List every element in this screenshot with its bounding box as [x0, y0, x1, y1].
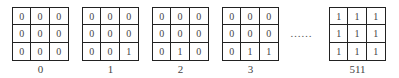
- cell: 0: [13, 43, 31, 60]
- cell: 1: [171, 43, 189, 60]
- cell: 0: [260, 8, 278, 25]
- cell: 1: [367, 25, 385, 42]
- binary-grid-2: 0 0 0 0 0 0 0 1 0: [152, 7, 209, 61]
- grid-label-1: 1: [82, 63, 139, 75]
- cell: 0: [13, 25, 31, 42]
- binary-grid-511: 1 1 1 1 1 1 1 1 1: [329, 7, 386, 61]
- cell: 1: [348, 25, 366, 42]
- cell: 0: [31, 25, 49, 42]
- cell: 0: [241, 25, 259, 42]
- cell: 0: [241, 8, 259, 25]
- cell: 0: [153, 25, 171, 42]
- binary-grid-1: 0 0 0 0 0 0 0 0 1: [82, 7, 139, 61]
- cell: 0: [260, 25, 278, 42]
- cell: 0: [153, 43, 171, 60]
- cell: 0: [171, 8, 189, 25]
- cell: 0: [50, 25, 68, 42]
- cell: 0: [190, 25, 208, 42]
- grid-label-511: 511: [329, 63, 386, 75]
- cell: 0: [223, 25, 241, 42]
- cell: 1: [330, 43, 348, 60]
- cell: 0: [101, 8, 119, 25]
- grid-label-2: 2: [152, 63, 209, 75]
- cell: 0: [190, 8, 208, 25]
- cell: 0: [101, 25, 119, 42]
- grid-label-3: 3: [222, 63, 279, 75]
- cell: 0: [31, 8, 49, 25]
- cell: 0: [153, 8, 171, 25]
- cell: 0: [83, 8, 101, 25]
- cell: 0: [50, 8, 68, 25]
- cell: 0: [223, 43, 241, 60]
- cell: 1: [260, 43, 278, 60]
- binary-grid-3: 0 0 0 0 0 0 0 1 1: [222, 7, 279, 61]
- grid-label-0: 0: [12, 63, 69, 75]
- cell: 0: [101, 43, 119, 60]
- cell: 0: [223, 8, 241, 25]
- cell: 1: [348, 8, 366, 25]
- cell: 0: [120, 25, 138, 42]
- binary-grid-0: 0 0 0 0 0 0 0 0 0: [12, 7, 69, 61]
- cell: 1: [241, 43, 259, 60]
- cell: 1: [120, 43, 138, 60]
- cell: 0: [50, 43, 68, 60]
- cell: 0: [190, 43, 208, 60]
- cell: 0: [13, 8, 31, 25]
- cell: 0: [120, 8, 138, 25]
- cell: 0: [83, 43, 101, 60]
- cell: 0: [31, 43, 49, 60]
- cell: 0: [171, 25, 189, 42]
- ellipsis: ……: [290, 27, 312, 39]
- cell: 1: [330, 8, 348, 25]
- cell: 1: [367, 8, 385, 25]
- cell: 1: [367, 43, 385, 60]
- cell: 1: [330, 25, 348, 42]
- cell: 0: [83, 25, 101, 42]
- cell: 1: [348, 43, 366, 60]
